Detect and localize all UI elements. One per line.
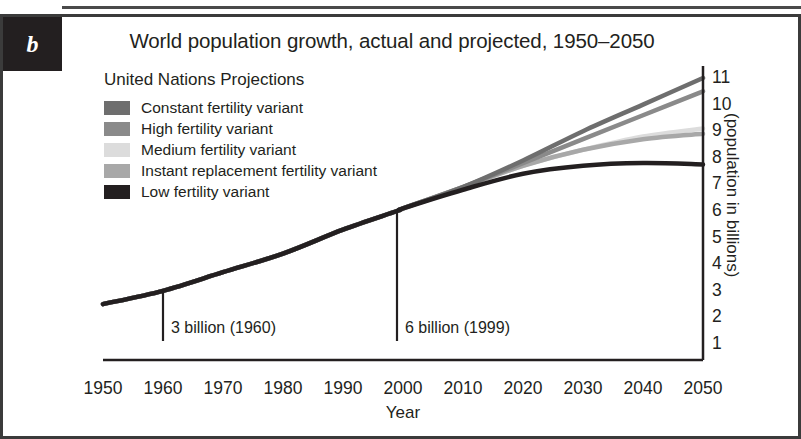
y-axis-tick-label: 11 <box>712 69 730 87</box>
figure-panel-b: b World population growth, actual and pr… <box>0 0 801 439</box>
y-axis-tick-label: 2 <box>712 309 722 327</box>
series-line-low-fertility-variant <box>103 163 703 304</box>
series-line-high-fertility-variant <box>103 91 703 304</box>
x-axis-tick-label: 1960 <box>144 378 183 399</box>
y-axis-tick-label: 6 <box>712 202 722 220</box>
series-line-instant-replacement-fertility-variant <box>103 134 703 304</box>
series-line-constant-fertility-variant <box>103 78 703 304</box>
x-axis-tick-label: 1980 <box>264 378 303 399</box>
x-axis-tick-label: 2050 <box>684 378 723 399</box>
x-axis-title: Year <box>103 403 703 423</box>
y-axis-title: (population in billions) <box>722 113 742 277</box>
annotation-label: 3 billion (1960) <box>171 319 276 337</box>
x-axis-tick-label: 2020 <box>504 378 543 399</box>
y-axis-tick-label: 5 <box>712 229 722 247</box>
x-axis-tick-label: 2040 <box>624 378 663 399</box>
series-line-medium-fertility-variant <box>103 129 703 305</box>
x-axis-tick-label: 1970 <box>204 378 243 399</box>
annotation-label: 6 billion (1999) <box>405 319 510 337</box>
y-axis-tick-label: 4 <box>712 255 722 273</box>
y-axis-tick-label: 1 <box>712 335 722 353</box>
y-axis-tick-label: 10 <box>712 96 731 114</box>
y-axis-tick-label: 8 <box>712 149 722 167</box>
x-axis-tick-label: 2010 <box>444 378 483 399</box>
x-axis-tick-label: 1950 <box>84 378 123 399</box>
y-axis-tick-label: 9 <box>712 122 722 140</box>
plot-area <box>0 0 801 439</box>
x-axis-tick-label: 1990 <box>324 378 363 399</box>
y-axis-tick-label: 7 <box>712 176 722 194</box>
x-axis-tick-label: 2000 <box>384 378 423 399</box>
y-axis-tick-label: 3 <box>712 282 722 300</box>
x-axis-tick-label: 2030 <box>564 378 603 399</box>
